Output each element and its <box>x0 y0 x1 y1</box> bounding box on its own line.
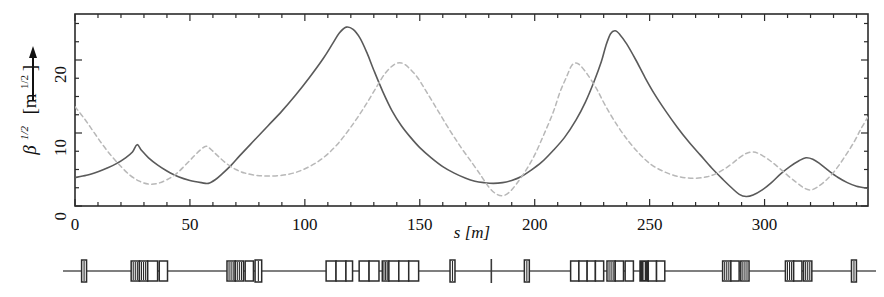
beta-function-figure: β 1/2 [m 1/2 ] 05010015020025030001020 s… <box>0 0 884 297</box>
lattice-element <box>657 261 665 281</box>
lattice-element <box>640 261 648 281</box>
lattice-element <box>359 261 369 281</box>
lattice-element <box>245 261 253 281</box>
lattice-element <box>741 261 749 281</box>
lattice-element <box>804 261 812 281</box>
lattice-element <box>571 261 579 281</box>
lattice-element <box>326 261 336 281</box>
x-axis-label: s [m] <box>454 223 490 242</box>
x-tick-label: 150 <box>407 215 433 234</box>
lattice-element <box>148 261 158 281</box>
lattice-element <box>369 261 379 281</box>
beta-function-chart: β 1/2 [m 1/2 ] 05010015020025030001020 s… <box>0 0 884 245</box>
lattice-element <box>524 260 529 282</box>
lattice-element <box>731 261 739 281</box>
lattice-element <box>139 261 147 281</box>
chart-series-beta_y_sqrt <box>75 63 868 196</box>
x-tick-label: 0 <box>71 215 80 234</box>
y-axis-label-beta-exponent: 1/2 <box>18 125 30 140</box>
lattice-element <box>723 261 731 281</box>
lattice-element <box>648 261 656 281</box>
axis-ticks <box>75 14 868 206</box>
y-axis-label-unit-open: [m <box>19 93 40 114</box>
chart-series-group <box>75 27 868 197</box>
y-axis-label-unit-exponent: 1/2 <box>18 75 30 89</box>
lattice-element <box>389 261 399 281</box>
chart-series-beta_x_sqrt <box>75 27 868 197</box>
lattice-element <box>346 261 353 281</box>
axis-tick-labels: 05010015020025030001020 <box>51 66 777 234</box>
lattice-element <box>625 261 633 281</box>
lattice-element <box>82 260 87 282</box>
lattice-element <box>595 261 603 281</box>
lattice-element <box>336 261 346 281</box>
lattice-element <box>579 261 587 281</box>
plot-frame <box>75 14 868 206</box>
lattice-element <box>607 261 615 281</box>
y-tick-label: 10 <box>51 139 70 156</box>
x-tick-label: 300 <box>752 215 778 234</box>
lattice-element <box>235 261 243 281</box>
lattice-body <box>63 259 876 283</box>
x-tick-label: 250 <box>637 215 663 234</box>
x-tick-label: 100 <box>292 215 318 234</box>
x-tick-label: 50 <box>181 215 198 234</box>
lattice-element <box>409 261 419 281</box>
magnet-lattice-diagram <box>0 245 884 297</box>
lattice-element <box>399 261 409 281</box>
y-tick-label: 20 <box>51 66 70 83</box>
lattice-element <box>255 260 262 282</box>
lattice-element <box>587 261 595 281</box>
y-tick-label: 0 <box>51 212 70 221</box>
lattice-element <box>131 261 139 281</box>
lattice-element <box>851 260 856 282</box>
lattice-element <box>615 261 623 281</box>
lattice-element <box>450 260 455 282</box>
y-axis-label-unit-close: ] <box>19 65 40 71</box>
x-tick-label: 200 <box>522 215 548 234</box>
lattice-element <box>159 261 167 281</box>
lattice-element <box>785 261 793 281</box>
lattice-element <box>794 261 802 281</box>
y-axis-label-beta: β <box>19 145 40 156</box>
up-arrow-icon <box>29 46 37 100</box>
y-axis-label: β 1/2 [m 1/2 ] <box>18 46 40 156</box>
lattice-element <box>227 261 235 281</box>
lattice-element <box>382 261 389 281</box>
